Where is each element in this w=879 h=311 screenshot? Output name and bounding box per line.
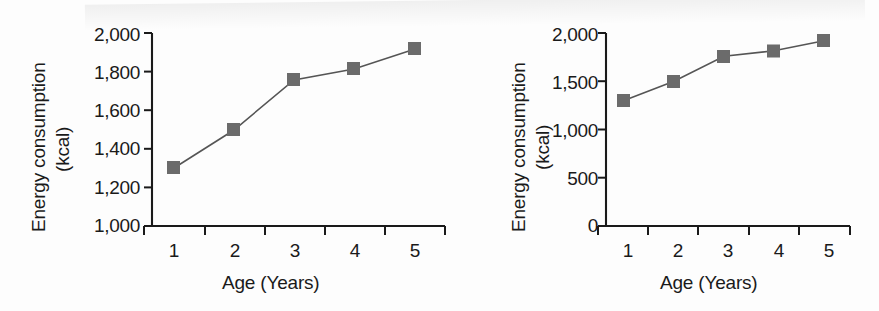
- x-tick-label-right-5: 5: [814, 240, 844, 262]
- data-point-right-age2: [667, 75, 680, 88]
- data-point-right-age3: [717, 50, 730, 63]
- x-tick-label-right-1: 1: [613, 240, 643, 262]
- plot-area-left: [0, 0, 460, 311]
- data-point-left-age3: [287, 73, 300, 86]
- series-line-left: [174, 49, 415, 168]
- x-tick-label-left-1: 1: [159, 240, 189, 262]
- x-axis-title-left: Age (Years): [222, 272, 319, 294]
- x-tick-label-left-3: 3: [280, 240, 310, 262]
- y-ticks-left: [144, 33, 152, 226]
- data-point-right-age1: [617, 94, 630, 107]
- data-point-right-age4: [767, 45, 780, 58]
- x-tick-label-right-2: 2: [663, 240, 693, 262]
- data-point-left-age1: [167, 161, 180, 174]
- x-tick-label-right-4: 4: [764, 240, 794, 262]
- figure-canvas: Energy consumption (kcal) 2,000 1,800 1,…: [0, 0, 879, 311]
- x-tick-label-right-3: 3: [713, 240, 743, 262]
- series-markers-left: [167, 42, 421, 174]
- x-tick-label-left-2: 2: [220, 240, 250, 262]
- data-point-left-age4: [347, 62, 360, 75]
- data-point-left-age5: [408, 42, 421, 55]
- x-tick-label-left-4: 4: [340, 240, 370, 262]
- x-ticks-right: [598, 226, 850, 235]
- x-axis-title-right: Age (Years): [660, 272, 757, 294]
- plot-area-right: [440, 0, 879, 311]
- x-ticks-left: [144, 226, 445, 235]
- data-point-right-age5: [817, 34, 830, 47]
- chart-panel-left: Energy consumption (kcal) 2,000 1,800 1,…: [0, 0, 460, 311]
- series-line-right: [624, 41, 824, 101]
- y-ticks-right: [598, 33, 606, 226]
- series-markers-right: [617, 34, 830, 107]
- x-tick-label-left-5: 5: [400, 240, 430, 262]
- data-point-left-age2: [227, 123, 240, 136]
- chart-panel-right: Energy consumption (kcal) 2,000 1,500 1,…: [440, 0, 879, 311]
